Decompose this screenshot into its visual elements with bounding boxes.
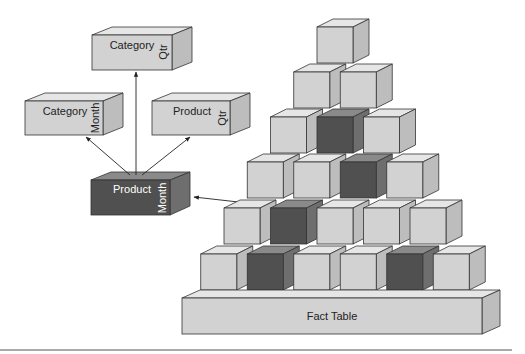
cube <box>294 64 346 108</box>
cube <box>340 246 392 290</box>
arrow-to-category-month <box>86 137 130 175</box>
cube-highlighted <box>247 246 299 290</box>
cube <box>317 200 369 244</box>
fact-table-label: Fact Table <box>307 310 358 322</box>
aggregate-box-category-qtr: Category Qtr <box>92 27 192 70</box>
cube <box>364 109 416 153</box>
cube-highlighted <box>317 109 369 153</box>
cube <box>247 154 299 198</box>
fact-table: Fact Table <box>182 290 500 334</box>
cube-highlighted <box>340 154 392 198</box>
aggregate-side-label: Month <box>156 183 168 214</box>
cube <box>387 154 439 198</box>
cube <box>224 200 276 244</box>
cube <box>410 200 462 244</box>
cube <box>271 109 323 153</box>
aggregate-box-product-qtr: Product Qtr <box>152 93 250 135</box>
aggregate-label: Category <box>43 105 88 117</box>
cube-highlighted <box>271 200 323 244</box>
aggregate-side-label: Qtr <box>157 44 169 60</box>
cube-highlighted <box>387 246 439 290</box>
aggregate-navigation-diagram: Category Qtr Category Month Product Qtr … <box>0 0 525 354</box>
aggregate-label: Product <box>173 105 211 117</box>
cube <box>433 246 485 290</box>
cube <box>294 246 346 290</box>
aggregate-side-label: Month <box>89 103 101 134</box>
cube <box>294 154 346 198</box>
cube <box>364 200 416 244</box>
arrow-to-product-qtr <box>142 137 190 175</box>
aggregate-side-label: Qtr <box>216 110 228 126</box>
cube-pyramid <box>201 19 486 290</box>
cube <box>317 19 369 63</box>
cube <box>340 64 392 108</box>
aggregate-box-product-month: Product Month <box>91 172 190 215</box>
aggregate-label: Product <box>113 183 151 195</box>
cube <box>201 246 253 290</box>
aggregate-box-category-month: Category Month <box>25 93 123 135</box>
aggregate-label: Category <box>110 39 155 51</box>
